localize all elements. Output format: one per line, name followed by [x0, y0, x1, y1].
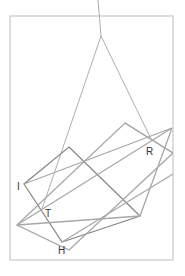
label-h: H	[58, 245, 65, 256]
label-r: R	[146, 146, 153, 157]
geometry-diagram: R I T H	[0, 0, 185, 276]
label-t: T	[45, 208, 51, 219]
label-i: I	[17, 181, 20, 192]
